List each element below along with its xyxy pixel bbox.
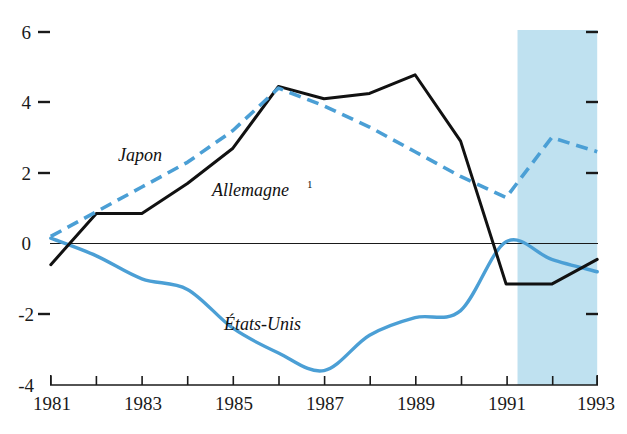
y-axis-label-4: 4 [22, 92, 32, 113]
y-axis-label-0: 0 [22, 233, 32, 254]
series-line-allemagne [51, 75, 597, 284]
series-annotation-japon: Japon [118, 145, 162, 165]
y-axis-ticks-left [38, 32, 50, 314]
series-line-etats-unis [51, 238, 597, 371]
x-axis-label-1985: 1985 [215, 393, 253, 414]
forecast-shaded-region [518, 30, 598, 385]
y-axis-labels: 6 4 2 0 -2 -4 [18, 22, 34, 396]
y-axis-label-6: 6 [22, 22, 32, 43]
x-axis-labels: 1981 1983 1985 1987 1989 1991 1993 [33, 393, 615, 414]
x-axis-ticks [51, 376, 597, 385]
economic-line-chart: 6 4 2 0 -2 -4 1981 [0, 0, 627, 434]
chart-container: 6 4 2 0 -2 -4 1981 [0, 0, 627, 434]
y-axis-label-minus-2: -2 [18, 304, 34, 325]
series-annotation-allemagne: Allemagne [211, 180, 289, 200]
series-annotation-allemagne-footnote: 1 [307, 178, 313, 190]
x-axis-label-1991: 1991 [488, 393, 526, 414]
x-axis-label-1983: 1983 [124, 393, 162, 414]
x-axis-label-1993: 1993 [577, 393, 615, 414]
x-axis-label-1987: 1987 [306, 393, 344, 414]
y-axis-label-2: 2 [22, 163, 32, 184]
x-axis-label-1981: 1981 [33, 393, 71, 414]
series-annotation-etats-unis: États-Unis [223, 313, 301, 334]
x-axis-label-1989: 1989 [397, 393, 435, 414]
series-annotation-allemagne-group: Allemagne 1 [211, 178, 313, 200]
